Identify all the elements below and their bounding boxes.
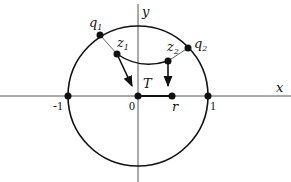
tick-label-one: 1: [210, 99, 216, 113]
tick-label-r: r: [172, 99, 179, 114]
point-origin: [135, 93, 142, 100]
diagram-canvas: y x q1 q2 z1 z2 T -1 0 r 1: [0, 0, 291, 182]
point-minus-one: [65, 93, 72, 100]
label-T: T: [143, 76, 153, 91]
point-q2: [185, 45, 192, 52]
label-q1: q1: [89, 15, 102, 32]
point-q1: [97, 32, 104, 39]
tick-label-zero: 0: [129, 99, 135, 113]
inner-arc-z1-z2: [117, 54, 168, 64]
label-z2: z2: [166, 39, 179, 56]
y-axis-label: y: [141, 4, 150, 19]
label-q2: q2: [194, 36, 207, 53]
point-z2: [165, 58, 172, 65]
x-axis-label: x: [276, 80, 284, 95]
tick-label-minus-one: -1: [53, 99, 63, 113]
point-z1: [114, 51, 121, 58]
label-z1: z1: [116, 35, 129, 52]
chord-q1-z1: [100, 35, 117, 54]
